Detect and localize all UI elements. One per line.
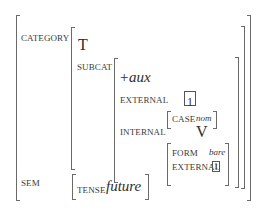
sem-right-bracket <box>145 174 149 200</box>
form-label: FORM <box>172 148 198 158</box>
internal-label: INTERNAL <box>120 127 166 137</box>
aux-value: +aux <box>119 69 151 86</box>
category-label: CATEGORY <box>21 33 69 43</box>
external-label: EXTERNAL <box>120 95 168 105</box>
subcat-right-bracket <box>235 57 239 188</box>
tag-number-small: 1 <box>213 162 219 171</box>
category-right-bracket <box>241 26 245 189</box>
form-value: bare <box>209 147 225 157</box>
tag-box-1-small: 1 <box>212 161 220 172</box>
outer-left-bracket <box>16 15 20 201</box>
case-right-bracket <box>213 111 217 129</box>
subcat-label: SUBCAT <box>77 62 112 72</box>
tense-value: future <box>106 178 141 195</box>
internal-left-bracket <box>167 143 171 186</box>
case-value: nom <box>196 113 212 123</box>
category-left-bracket <box>71 27 75 170</box>
subcat-left-bracket <box>114 58 118 183</box>
sem-label: SEM <box>21 178 40 188</box>
case-left-bracket <box>167 111 171 129</box>
outer-right-bracket <box>247 15 251 201</box>
tag-number: 1 <box>187 95 193 109</box>
category-head-T: T <box>78 36 88 54</box>
internal-right-bracket <box>225 143 229 186</box>
case-label: CASE <box>172 114 195 124</box>
internal-head-V: V <box>196 123 208 141</box>
tense-label: TENSE <box>77 185 106 195</box>
sem-left-bracket <box>72 174 76 200</box>
tag-box-1: 1 <box>184 91 196 106</box>
